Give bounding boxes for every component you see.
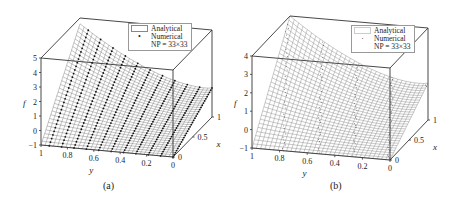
svg-text:0.6: 0.6: [302, 157, 312, 166]
svg-text:1: 1: [244, 107, 248, 116]
svg-text:0.2: 0.2: [357, 162, 367, 171]
svg-text:0: 0: [388, 164, 392, 173]
svg-text:x: x: [432, 142, 437, 152]
svg-text:2: 2: [244, 89, 248, 98]
svg-text:f: f: [234, 98, 238, 108]
svg-text:0.8: 0.8: [275, 154, 285, 163]
svg-text:1: 1: [433, 116, 437, 125]
numerical-marker: ·: [354, 35, 371, 43]
svg-text:0: 0: [244, 126, 248, 135]
svg-text:0: 0: [395, 156, 399, 165]
svg-text:−1: −1: [239, 144, 248, 153]
svg-text:4: 4: [244, 52, 248, 61]
legend-np: NP = 33×33: [374, 42, 411, 51]
chart-panel-b: −101234f10.80.60.40.20y00.51x Analytical…: [0, 0, 455, 205]
caption-b: (b): [330, 180, 342, 191]
svg-text:0.4: 0.4: [330, 159, 340, 168]
legend-b: Analytical ·NumericalNP = 33×33: [351, 25, 415, 53]
svg-text:1: 1: [250, 152, 254, 161]
analytical-swatch: [354, 27, 371, 34]
svg-text:3: 3: [244, 70, 248, 79]
svg-text:y: y: [301, 168, 306, 178]
svg-text:0.5: 0.5: [414, 136, 424, 145]
